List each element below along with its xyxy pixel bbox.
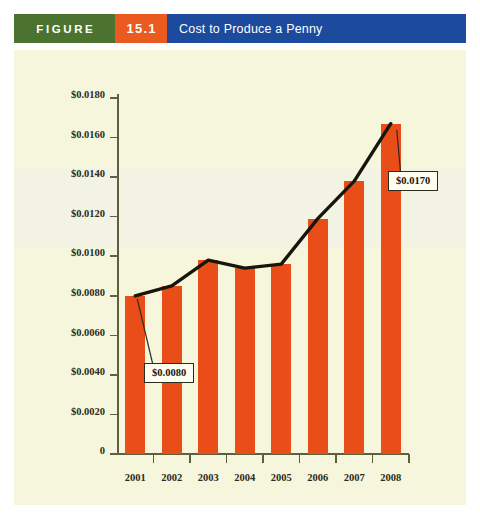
y-tick: $0.0020	[110, 414, 118, 416]
y-tick: $0.0160	[110, 137, 118, 139]
x-tick	[153, 454, 155, 463]
figure-page: FIGURE 15.1 Cost to Produce a Penny 0$0.…	[0, 0, 480, 518]
x-tick	[226, 454, 228, 463]
bar-2005	[271, 264, 291, 454]
bar-2006	[308, 219, 328, 454]
y-tick-label: $0.0080	[71, 287, 105, 298]
y-tick-label: $0.0100	[71, 247, 105, 258]
x-tick	[335, 454, 337, 463]
x-tick-label-2007: 2007	[344, 472, 365, 483]
y-axis	[117, 94, 119, 455]
bar-2001	[125, 296, 145, 454]
x-tick-label-2006: 2006	[307, 472, 328, 483]
callout-low-value: $0.0080	[144, 363, 194, 383]
callout-high-value: $0.0170	[388, 171, 438, 191]
y-tick: $0.0140	[110, 176, 118, 178]
figure-panel: 0$0.0020$0.0040$0.0060$0.0080$0.0100$0.0…	[14, 50, 466, 505]
y-tick-label: $0.0060	[71, 327, 105, 338]
x-tick-label-2004: 2004	[234, 472, 255, 483]
x-tick-label-2002: 2002	[161, 472, 182, 483]
x-tick	[408, 454, 410, 463]
x-tick	[262, 454, 264, 463]
bar-2003	[198, 260, 218, 454]
x-tick-label-2005: 2005	[271, 472, 292, 483]
x-tick	[189, 454, 191, 463]
y-tick-label: $0.0020	[71, 406, 105, 417]
x-tick-label-2003: 2003	[198, 472, 219, 483]
figure-number: 15.1	[115, 14, 167, 43]
figure-banner: FIGURE 15.1 Cost to Produce a Penny	[14, 14, 466, 43]
y-tick: $0.0180	[110, 97, 118, 99]
y-tick: $0.0060	[110, 335, 118, 337]
bar-2004	[235, 268, 255, 454]
figure-title: Cost to Produce a Penny	[167, 14, 466, 43]
y-tick: $0.0080	[110, 295, 118, 297]
y-tick-label: $0.0140	[71, 168, 105, 179]
y-tick: 0	[110, 453, 118, 455]
plot-area: 0$0.0020$0.0040$0.0060$0.0080$0.0100$0.0…	[117, 94, 409, 459]
y-tick: $0.0120	[110, 216, 118, 218]
y-tick-label: $0.0180	[71, 89, 105, 100]
y-tick: $0.0100	[110, 255, 118, 257]
y-tick-label: 0	[100, 445, 105, 456]
y-tick: $0.0040	[110, 374, 118, 376]
y-tick-label: $0.0160	[71, 129, 105, 140]
bar-2007	[344, 181, 364, 454]
y-tick-label: $0.0040	[71, 366, 105, 377]
x-tick	[372, 454, 374, 463]
x-tick-label-2001: 2001	[125, 472, 146, 483]
x-tick-label-2008: 2008	[380, 472, 401, 483]
figure-label: FIGURE	[14, 14, 115, 43]
x-tick	[299, 454, 301, 463]
y-tick-label: $0.0120	[71, 208, 105, 219]
